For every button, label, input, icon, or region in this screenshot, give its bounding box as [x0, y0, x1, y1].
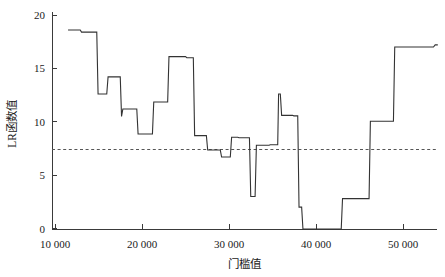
- x-tick-label-group: 10 00020 00030 00040 00050 000: [40, 238, 419, 250]
- y-tick-label: 15: [34, 62, 46, 74]
- y-tick-label: 10: [34, 116, 46, 128]
- x-tick-label: 50 000: [388, 238, 419, 250]
- y-tick-label: 20: [34, 9, 46, 21]
- x-tick-label: 10 000: [40, 238, 71, 250]
- y-tick-label: 5: [40, 169, 46, 181]
- chart-figure: 05101520 10 00020 00030 00040 00050 000 …: [0, 0, 445, 277]
- x-tick-label: 40 000: [301, 238, 332, 250]
- x-tick-label: 20 000: [127, 238, 158, 250]
- x-axis-title: 门槛值: [228, 257, 262, 270]
- y-tick-label: 0: [40, 223, 46, 235]
- x-tick-label: 30 000: [214, 238, 245, 250]
- x-tick-group: [55, 224, 403, 229]
- y-tick-label-group: 05101520: [34, 9, 46, 235]
- line-chart-canvas: 05101520 10 00020 00030 00040 00050 000 …: [0, 0, 445, 277]
- y-axis-title: LR函数值: [5, 99, 18, 148]
- lr-statistic-step-line: [68, 30, 438, 229]
- y-tick-group: [52, 15, 57, 229]
- axis-group: [52, 12, 437, 229]
